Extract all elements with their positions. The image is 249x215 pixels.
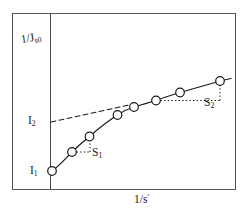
data-point-marker xyxy=(85,132,94,141)
measured-curve-line xyxy=(52,79,231,172)
data-point-marker xyxy=(48,167,57,176)
annotation-i2-subscript: 2 xyxy=(32,119,36,128)
annotation-i1-subscript: 1 xyxy=(34,169,38,178)
data-point-marker xyxy=(130,103,139,112)
y-axis-label-subscript: s0 xyxy=(34,35,42,45)
x-axis-label: 1/s′ xyxy=(134,194,149,206)
annotation-s1: S1 xyxy=(92,147,102,160)
x-axis-label-prime: ′ xyxy=(147,193,149,202)
annotation-i1: I1 xyxy=(30,165,38,178)
data-point-marker xyxy=(68,148,77,157)
figure-frame xyxy=(13,14,236,190)
data-point-markers xyxy=(48,77,225,176)
annotation-s2: S2 xyxy=(204,97,214,110)
figure-container: 1/Js0 1/s′ I1 I2 S1 S2 xyxy=(0,0,249,215)
data-point-marker xyxy=(152,96,161,105)
annotation-s2-subscript: 2 xyxy=(210,101,214,110)
x-axis-label-text: 1/s xyxy=(134,193,147,205)
annotation-s1-subscript: 1 xyxy=(98,151,102,160)
annotation-i2: I2 xyxy=(28,115,36,128)
data-point-marker xyxy=(216,77,225,86)
data-point-marker xyxy=(113,111,122,120)
data-point-marker xyxy=(176,88,185,97)
y-axis-label-text: 1/J xyxy=(20,31,35,45)
extrapolated-tangent-line xyxy=(51,103,138,122)
